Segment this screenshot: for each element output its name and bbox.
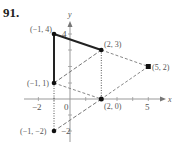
point-C: [52, 81, 57, 86]
label-point-B: (2, 3): [104, 40, 122, 49]
segment-C-E: [54, 83, 101, 99]
y-axis-arrow-icon: [68, 21, 73, 27]
x-axis-label: x: [167, 95, 172, 104]
y-tick-neg2: −2: [61, 126, 71, 136]
point-D: [146, 64, 151, 69]
label-point-F: (−1, −2): [20, 127, 47, 136]
x-axis-arrow-icon: [160, 97, 166, 102]
problem-number: 91.: [3, 5, 19, 20]
y-axis-label: y: [67, 10, 72, 19]
segment-C-B: [54, 50, 101, 83]
point-E: [99, 97, 104, 102]
transformation-diagram: 91. x y −2 0 5 4 −2: [0, 0, 178, 145]
label-point-C: (−1, 1): [27, 79, 49, 88]
x-tick-0: 0: [64, 102, 69, 112]
point-F: [52, 129, 57, 134]
segment-D-E: [101, 67, 148, 100]
label-point-A: (−1, 4): [30, 25, 52, 34]
label-point-D: (5, 2): [152, 63, 170, 72]
segment-A-B: [54, 34, 101, 50]
point-A: [52, 32, 57, 37]
label-point-E: (2, 0): [104, 102, 122, 111]
point-B: [99, 48, 104, 53]
x-tick-neg2: −2: [32, 102, 42, 112]
segment-E-F: [54, 99, 101, 131]
x-tick-5: 5: [145, 102, 150, 112]
segment-B-D: [101, 50, 148, 67]
